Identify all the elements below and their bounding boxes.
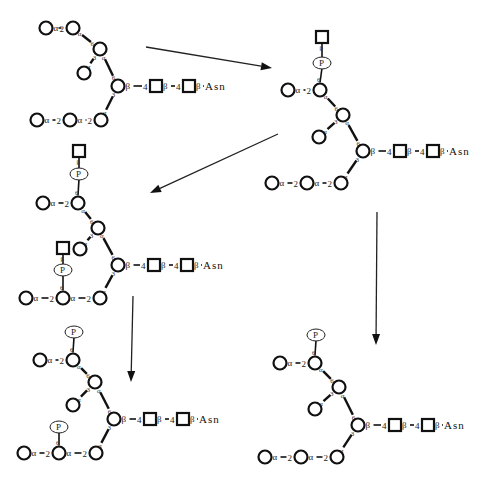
mannose-circle-icon <box>331 451 344 464</box>
mannose-circle-icon <box>67 354 80 367</box>
glycosidic-bond <box>344 397 353 414</box>
mannose-circle-icon <box>108 413 121 426</box>
structure-2: α2α6α3α6α3α2α2β4β4βAsn6βP <box>266 31 470 190</box>
structure-3: α2α6α3α6α3α2α2β4β4βAsn6βP6βP <box>20 145 224 305</box>
asparagine-label: Asn <box>205 80 226 92</box>
anomeric-label: β <box>77 158 81 166</box>
phosphate-label: P <box>319 58 324 68</box>
glcnac-square-icon <box>57 242 69 254</box>
position-label: 2 <box>302 359 307 369</box>
glcnac-square-icon <box>316 31 328 43</box>
mannose-circle-icon <box>282 84 295 97</box>
anomeric-label: β <box>161 260 166 270</box>
bonds <box>53 28 205 120</box>
anomeric-label: β <box>402 420 407 430</box>
arrow-shaft <box>376 212 377 334</box>
mannose-circle-icon <box>314 84 327 97</box>
arrow-1-to-2 <box>146 47 272 70</box>
phosphate-label: P <box>76 169 81 179</box>
linkage-labels: α2α6α3α6α3α2α2β4β4βAsn <box>45 23 226 126</box>
anomeric-label: β <box>163 81 168 91</box>
mannose-circle-icon <box>89 376 102 389</box>
position-label: 6 <box>70 346 74 354</box>
position-label: 6 <box>60 284 64 292</box>
residues <box>266 84 440 190</box>
glycosidic-bond <box>349 125 358 141</box>
residues <box>259 357 435 464</box>
anomeric-label: α <box>296 85 301 95</box>
mannose-circle-icon <box>67 399 80 412</box>
phosphate-group-lower: 6P <box>50 421 68 447</box>
mannose-circle-icon <box>337 109 350 122</box>
asparagine-label: Asn <box>444 419 465 431</box>
anomeric-label: β <box>190 414 195 424</box>
anomeric-label: β <box>157 414 162 424</box>
position-label: 4 <box>387 147 392 157</box>
phosphate-group-lower: 6βP <box>54 242 72 292</box>
glycan-pathway-diagram: α2α6α3α6α3α2α2β4β4βAsnα2α6α3α6α3α2α2β4β4… <box>0 0 495 485</box>
structure-1: α2α6α3α6α3α2α2β4β4βAsn <box>31 22 226 127</box>
anomeric-label: α <box>67 448 72 458</box>
glcnac-square-icon <box>183 80 195 92</box>
anomeric-label: β <box>194 260 199 270</box>
bonds <box>281 363 444 457</box>
asparagine-label: Asn <box>449 145 470 157</box>
arrowhead-icon <box>260 62 272 70</box>
phosphate-group-upper: 6P <box>307 329 325 357</box>
anomeric-label: β <box>366 420 371 430</box>
anomeric-label: α <box>71 293 76 303</box>
mannose-circle-icon <box>74 243 87 256</box>
asparagine-label: Asn <box>203 259 224 271</box>
anomeric-label: α <box>54 23 59 33</box>
anomeric-label: β <box>122 414 127 424</box>
position-label: 6 <box>56 439 60 447</box>
mannose-circle-icon <box>301 177 314 190</box>
linkage-labels: α2α6α3α6α3α2α2β4β4βAsn <box>280 85 470 189</box>
mannose-circle-icon <box>53 447 66 460</box>
glcnac-square-icon <box>150 80 162 92</box>
mannose-circle-icon <box>333 381 346 394</box>
mannose-circle-icon <box>335 177 348 190</box>
mannose-circle-icon <box>37 197 50 210</box>
position-label: 4 <box>382 421 387 431</box>
structures-layer: α2α6α3α6α3α2α2β4β4βAsnα2α6α3α6α3α2α2β4β4… <box>18 22 470 464</box>
asparagine-label: Asn <box>199 413 220 425</box>
arrowhead-icon <box>150 185 162 193</box>
mannose-circle-icon <box>18 447 31 460</box>
structure-4: α2α6α3α6α3α2α2β4β4βAsn6P6P <box>18 326 220 460</box>
anomeric-label: α <box>32 448 37 458</box>
position-label: 4 <box>170 415 175 425</box>
position-label: 6 <box>312 349 316 357</box>
glcnac-square-icon <box>144 413 156 425</box>
position-label: 2 <box>57 116 62 126</box>
phosphate-label: P <box>313 330 318 340</box>
position-label: 2 <box>88 116 93 126</box>
position-label: 4 <box>141 261 146 271</box>
position-label: 4 <box>137 415 142 425</box>
anomeric-label: β <box>407 146 412 156</box>
glcnac-square-icon <box>427 145 439 157</box>
arrow-shaft <box>131 296 133 371</box>
glcnac-square-icon <box>148 259 160 271</box>
arrows-layer <box>127 47 380 382</box>
position-label: 2 <box>46 449 51 459</box>
bonds <box>40 360 199 453</box>
mannose-circle-icon <box>295 451 308 464</box>
position-label: 2 <box>328 179 333 189</box>
glycosidic-bond <box>100 392 108 409</box>
phosphate-group-upper: 6βP <box>313 31 331 84</box>
position-label: 2 <box>324 453 329 463</box>
mannose-circle-icon <box>309 403 322 416</box>
arrowhead-icon <box>372 334 380 345</box>
phosphate-group-upper: 6βP <box>70 145 88 197</box>
anomeric-label: α <box>34 293 39 303</box>
phosphate-label: P <box>60 265 65 275</box>
position-label: 4 <box>176 82 181 92</box>
arrow-3-to-4 <box>127 296 135 382</box>
position-label: 2 <box>83 449 88 459</box>
position-label: 6 <box>317 76 321 84</box>
mannose-circle-icon <box>309 357 322 370</box>
position-label: 2 <box>87 294 92 304</box>
mannose-circle-icon <box>31 114 44 127</box>
mannose-circle-icon <box>313 131 326 144</box>
